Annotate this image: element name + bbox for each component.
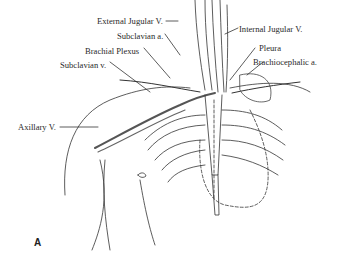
anatomical-illustration: External Jugular V. Subclavian a. Brachi…	[0, 0, 342, 264]
label-external-jugular-v: External Jugular V.	[97, 17, 163, 26]
label-pleura: Pleura	[259, 44, 281, 53]
label-internal-jugular-v: Internal Jugular V.	[239, 25, 302, 34]
anatomy-drawing	[0, 0, 342, 264]
label-subclavian-v: Subclavian v.	[60, 61, 106, 70]
label-axillary-v: Axillary V.	[18, 123, 56, 132]
label-subclavian-a: Subclavian a.	[117, 32, 163, 41]
panel-letter: A	[34, 237, 41, 248]
label-brachial-plexus: Brachial Plexus	[85, 47, 139, 56]
label-brachiocephalic-a: Brachiocephalic a.	[253, 58, 317, 67]
